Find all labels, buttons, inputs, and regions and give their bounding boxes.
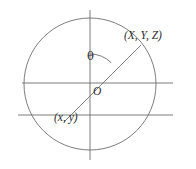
geometry-figure: (X, Y, Z) (x, y) O θ bbox=[0, 0, 196, 169]
label-point-lower-left: (x, y) bbox=[54, 112, 78, 124]
label-origin: O bbox=[93, 86, 101, 98]
label-point-upper-right: (X, Y, Z) bbox=[124, 30, 162, 42]
label-angle-theta: θ bbox=[87, 51, 94, 63]
